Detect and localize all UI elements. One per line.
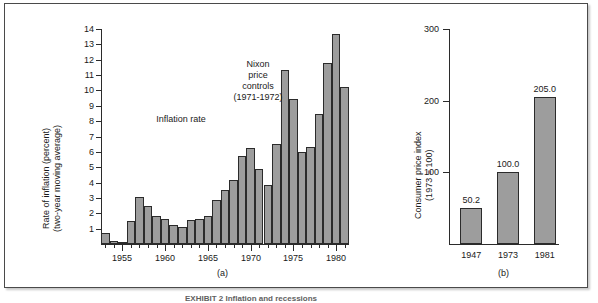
panel-a-y-tick-label: 3	[71, 194, 94, 203]
bar-1960	[161, 219, 170, 244]
inflation-rate-chart: Rate of inflation (percent) (two-year mo…	[5, 4, 395, 287]
bar-1979	[323, 63, 332, 244]
value-label-1973: 100.0	[488, 160, 528, 169]
panel-a-y-tick	[96, 137, 102, 138]
panel-a-x-tick-minor	[199, 245, 200, 248]
value-label-1981: 205.0	[525, 85, 565, 94]
bar-1964	[195, 219, 204, 244]
panel-a-y-tick	[96, 121, 102, 122]
nixon-line-1: Nixon	[246, 59, 269, 69]
annotation-inflation-rate: Inflation rate	[141, 114, 221, 125]
panel-a-x-tick-minor	[285, 245, 286, 248]
panel-a-x-tick-minor	[174, 245, 175, 248]
panel-b-y-tick-label: 100	[413, 168, 439, 177]
panel-b-y-tick-label: 300	[413, 25, 439, 34]
bar-1953	[101, 233, 110, 244]
panel-a-x-tick-major	[251, 245, 252, 251]
panel-a-y-tick-label: 8	[71, 117, 94, 126]
panel-a-x-tick-minor	[276, 245, 277, 248]
panel-a-y-tick	[96, 167, 102, 168]
annotation-nixon-price-controls: Nixon price controls (1971-1972)	[218, 59, 298, 103]
bar-1971	[255, 169, 264, 244]
panel-a-x-tick-label: 1955	[107, 254, 137, 263]
panel-a-y-tick-label: 14	[71, 25, 94, 34]
nixon-line-4: (1971-1972)	[233, 92, 282, 102]
panel-a-y-tick	[96, 229, 102, 230]
panel-a-y-tick	[96, 152, 102, 153]
figure-frame: Rate of inflation (percent) (two-year mo…	[4, 3, 588, 288]
panel-a-y-tick	[96, 106, 102, 107]
panel-b-x-tick-label: 1981	[527, 251, 563, 260]
panel-a-y-tick-label: 5	[71, 163, 94, 172]
panel-a-y-axis-title: Rate of inflation (percent) (two-year mo…	[41, 125, 63, 232]
panel-a-x-tick-minor	[216, 245, 217, 248]
bar-1973	[272, 144, 281, 244]
consumer-price-index-chart: Consumer price index (1973 = 100) 100200…	[395, 4, 589, 287]
bar-1958	[144, 206, 153, 244]
nixon-line-2: price	[248, 70, 268, 80]
panel-a-y-tick	[96, 60, 102, 61]
bar-1956	[127, 221, 136, 244]
panel-a-x-tick-major	[293, 245, 294, 251]
bar-1957	[135, 197, 144, 244]
nixon-line-3: controls	[242, 81, 274, 91]
panel-b-y-tick	[443, 172, 450, 173]
panel-a-y-tick-label: 9	[71, 102, 94, 111]
panel-a-x-tick-minor	[139, 245, 140, 248]
panel-b-y-tick	[443, 29, 450, 30]
panel-a-x-tick-label: 1960	[150, 254, 180, 263]
panel-a-x-tick-label: 1975	[278, 254, 308, 263]
bar-1981	[534, 97, 556, 244]
panel-b-label: (b)	[498, 268, 509, 278]
panel-b-y-tick	[443, 101, 450, 102]
bar-1961	[169, 225, 178, 244]
panel-b-x-tick-label: 1947	[453, 251, 489, 260]
panel-a-y-tick-label: 11	[71, 71, 94, 80]
bar-1972	[264, 185, 273, 244]
panel-a-y-tick	[96, 44, 102, 45]
panel-a-x-tick-label: 1965	[193, 254, 223, 263]
panel-a-y-axis-title-line2: (two-year moving average)	[52, 125, 62, 232]
panel-a-y-tick-label: 7	[71, 133, 94, 142]
panel-a-y-tick-label: 10	[71, 86, 94, 95]
bar-1959	[152, 216, 161, 244]
bar-1967	[221, 190, 230, 244]
panel-a-x-tick-minor	[345, 245, 346, 248]
panel-a-y-tick	[96, 75, 102, 76]
panel-a-x-tick-minor	[148, 245, 149, 248]
bar-1978	[315, 114, 324, 244]
panel-a-y-tick	[96, 183, 102, 184]
panel-b-y-axis-line	[449, 29, 450, 245]
panel-a-x-tick-minor	[225, 245, 226, 248]
panel-a-y-tick	[96, 90, 102, 91]
panel-a-y-tick-label: 2	[71, 209, 94, 218]
bar-1977	[306, 147, 315, 245]
panel-a-x-tick-major	[336, 245, 337, 251]
panel-a-x-tick-minor	[268, 245, 269, 248]
panel-a-x-tick-major	[122, 245, 123, 251]
value-label-1947: 50.2	[451, 196, 491, 205]
panel-a-y-tick-label: 1	[71, 225, 94, 234]
panel-a-label: (a)	[217, 268, 228, 278]
bar-1947	[460, 208, 482, 244]
panel-a-x-tick-minor	[311, 245, 312, 248]
panel-a-x-tick-major	[208, 245, 209, 251]
panel-a-x-tick-minor	[114, 245, 115, 248]
bar-1966	[212, 200, 221, 245]
panel-a-x-tick-minor	[191, 245, 192, 248]
panel-a-x-tick-minor	[242, 245, 243, 248]
panel-b-x-tick-label: 1973	[490, 251, 526, 260]
figure-caption: EXHIBIT 2 Inflation and recessions	[185, 294, 485, 303]
panel-a-y-axis-title-line1: Rate of inflation (percent)	[41, 128, 51, 229]
panel-a-x-tick-minor	[234, 245, 235, 248]
bar-1969	[238, 156, 247, 244]
panel-a-y-tick-label: 6	[71, 148, 94, 157]
bar-1954	[110, 241, 119, 244]
panel-a-x-tick-minor	[259, 245, 260, 248]
bar-1975	[289, 99, 298, 244]
bar-1981	[340, 87, 349, 244]
bar-1965	[204, 216, 213, 244]
panel-a-x-tick-major	[165, 245, 166, 251]
bar-1962	[178, 227, 187, 244]
bar-1955	[118, 242, 127, 244]
